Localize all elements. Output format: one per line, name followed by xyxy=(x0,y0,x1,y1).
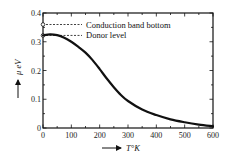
y-tick-label: 0 xyxy=(37,124,41,133)
y-tick-label: 0.1 xyxy=(31,95,41,104)
x-tick-label: 600 xyxy=(207,131,219,140)
plot-frame xyxy=(43,13,213,128)
x-axis-label: T°K xyxy=(102,143,141,153)
level-annotation: Donor level xyxy=(86,30,127,40)
mu-curve xyxy=(43,34,213,126)
y-tick-label: 0.3 xyxy=(31,38,41,47)
x-tick-label: 0 xyxy=(41,131,45,140)
level-marker-icon xyxy=(41,23,45,27)
y-tick-label: 0.2 xyxy=(31,67,41,76)
x-axis-ticks: 0100200300400500600 xyxy=(41,13,219,140)
x-tick-label: 300 xyxy=(122,131,134,140)
x-tick-label: 400 xyxy=(150,131,162,140)
level-annotation: Conduction band bottom xyxy=(86,20,171,30)
x-tick-label: 200 xyxy=(94,131,106,140)
x-axis-title: T°K xyxy=(126,143,141,153)
x-tick-label: 500 xyxy=(179,131,191,140)
x-tick-label: 100 xyxy=(65,131,77,140)
y-axis-title: μ eV xyxy=(13,58,23,76)
y-tick-label: 0.4 xyxy=(31,9,41,18)
y-axis-label: μ eV xyxy=(13,58,23,98)
chart: 0100200300400500600 00.10.20.30.4 Conduc… xyxy=(0,0,229,162)
